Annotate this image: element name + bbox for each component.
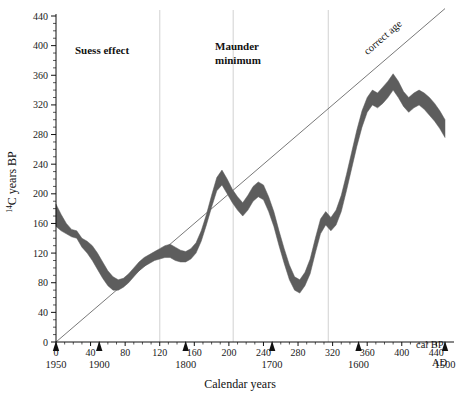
y-tick-label-240: 240 [33, 159, 48, 170]
y-tick-label-360: 360 [33, 70, 48, 81]
y-axis-title-text: C years BP [5, 151, 19, 205]
y-tick-label-160: 160 [33, 218, 48, 229]
x-axis-unit-ad: AD [432, 357, 448, 368]
y-tick-label-40: 40 [38, 307, 48, 318]
ad-year-label-1900: 1900 [89, 359, 110, 370]
y-tick-label-0: 0 [43, 337, 48, 348]
y-tick-label-200: 200 [33, 188, 48, 199]
x-axis-unit-cal-bp: cal BP [416, 339, 444, 350]
x-tick-label-240: 240 [256, 347, 271, 358]
x-tick-label-80: 80 [120, 347, 130, 358]
annotation-maunder-minimum-line2: minimum [215, 54, 261, 66]
radiocarbon-calibration-chart: 04080120160200240280320360400440 0408012… [0, 0, 457, 395]
annotation-suess-effect: Suess effect [75, 44, 129, 56]
x-tick-label-40: 40 [86, 347, 96, 358]
y-tick-label-80: 80 [38, 277, 48, 288]
svg-text:14C years BP: 14C years BP [5, 151, 19, 213]
y-tick-label-120: 120 [33, 248, 48, 259]
x-tick-label-200: 200 [221, 347, 236, 358]
x-tick-label-360: 360 [360, 347, 375, 358]
x-tick-label-160: 160 [187, 347, 202, 358]
ad-year-label-1800: 1800 [175, 359, 196, 370]
y-tick-label-440: 440 [33, 11, 48, 22]
ad-year-label-1700: 1700 [262, 359, 283, 370]
x-axis-title: Calendar years [204, 377, 276, 391]
y-tick-label-400: 400 [33, 40, 48, 51]
x-tick-label-320: 320 [325, 347, 340, 358]
annotation-maunder-minimum-line1: Maunder [215, 40, 259, 52]
ad-year-label-1950: 1950 [46, 359, 67, 370]
ad-year-label-1600: 1600 [348, 359, 369, 370]
y-axis-title: 14C years BP [5, 151, 19, 213]
x-tick-label-120: 120 [152, 347, 167, 358]
y-tick-label-280: 280 [33, 129, 48, 140]
x-tick-label-400: 400 [394, 347, 409, 358]
x-tick-label-280: 280 [291, 347, 306, 358]
y-tick-label-320: 320 [33, 99, 48, 110]
